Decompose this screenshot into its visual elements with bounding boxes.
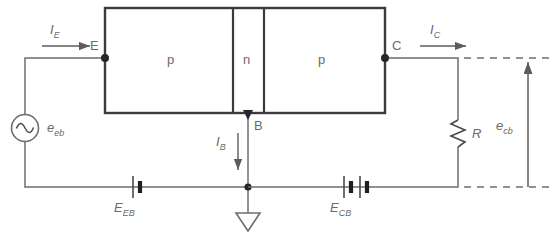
emitter-base-battery-subscript: EB (123, 208, 135, 218)
collector-base-battery-subscript: CB (339, 208, 352, 218)
collector-base-battery-label: ECB (330, 200, 351, 218)
collector-region-label: p (318, 52, 325, 67)
base-region-label: n (243, 52, 250, 67)
emitter-region-label: p (167, 52, 174, 67)
circuit-schematic (0, 0, 557, 236)
base-current-subscript: B (220, 142, 226, 152)
emitter-base-battery-label: EEB (114, 200, 135, 218)
collector-node-dot (381, 54, 389, 62)
load-resistor-symbol (451, 120, 465, 147)
collector-base-battery-symbol-text: E (330, 200, 339, 215)
collector-current-subscript: C (434, 30, 441, 40)
emitter-node-dot (101, 54, 109, 62)
base-terminal-label: B (254, 118, 263, 133)
collector-terminal-label: C (392, 38, 401, 53)
emitter-current-subscript: E (54, 30, 60, 40)
base-node-arrowhead (243, 110, 253, 120)
ground-symbol (236, 213, 260, 231)
ac-source-symbol (12, 115, 39, 142)
circuit-diagram: p n p E B C IE IB IC eeb EEB ECB R ecb (0, 0, 557, 236)
base-current-label: IB (216, 134, 226, 152)
ac-source-subscript: eb (54, 128, 64, 138)
output-voltage-subscript: cb (503, 126, 513, 136)
output-voltage-label: ecb (496, 118, 513, 136)
emitter-current-label: IE (50, 22, 60, 40)
emitter-terminal-label: E (90, 38, 99, 53)
emitter-base-battery-symbol-text: E (114, 200, 123, 215)
load-resistor-label: R (472, 126, 481, 141)
collector-current-label: IC (430, 22, 440, 40)
ac-source-label: eeb (47, 120, 64, 138)
